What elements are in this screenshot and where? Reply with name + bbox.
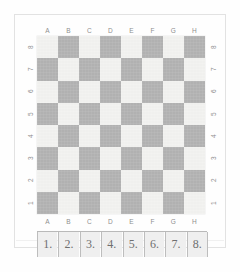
square-A5[interactable] [37, 103, 58, 125]
square-G4[interactable] [163, 125, 184, 147]
square-H1[interactable] [184, 192, 205, 214]
square-C2[interactable] [79, 170, 100, 192]
square-G8[interactable] [163, 36, 184, 58]
chessboard [37, 36, 205, 214]
rank-text: 7 [210, 68, 217, 72]
answer-cell-2[interactable]: 2. [58, 232, 78, 257]
file-labels-bottom: A B C D E F G H [37, 216, 205, 227]
rank-label-2-left: 2 [25, 170, 36, 192]
square-H8[interactable] [184, 36, 205, 58]
square-D6[interactable] [100, 81, 121, 103]
square-A6[interactable] [37, 81, 58, 103]
square-G6[interactable] [163, 81, 184, 103]
square-H7[interactable] [184, 58, 205, 80]
square-E8[interactable] [121, 36, 142, 58]
answer-strip: 1. 2. 3. 4. 5. 6. 7. 8. [37, 231, 207, 257]
square-B2[interactable] [58, 170, 79, 192]
rank-label-7-right: 7 [208, 58, 219, 80]
square-B7[interactable] [58, 58, 79, 80]
square-D1[interactable] [100, 192, 121, 214]
square-D5[interactable] [100, 103, 121, 125]
square-E7[interactable] [121, 58, 142, 80]
square-H5[interactable] [184, 103, 205, 125]
square-G1[interactable] [163, 192, 184, 214]
rank-label-1-left: 1 [25, 192, 36, 214]
file-label-h-top: H [184, 25, 205, 36]
square-G2[interactable] [163, 170, 184, 192]
square-A4[interactable] [37, 125, 58, 147]
square-H2[interactable] [184, 170, 205, 192]
square-D8[interactable] [100, 36, 121, 58]
square-B6[interactable] [58, 81, 79, 103]
square-C5[interactable] [79, 103, 100, 125]
rank-label-5-left: 5 [25, 103, 36, 125]
square-G7[interactable] [163, 58, 184, 80]
square-C4[interactable] [79, 125, 100, 147]
square-F7[interactable] [142, 58, 163, 80]
square-F2[interactable] [142, 170, 163, 192]
answer-cell-8[interactable]: 8. [187, 232, 207, 257]
square-D2[interactable] [100, 170, 121, 192]
square-B1[interactable] [58, 192, 79, 214]
square-F3[interactable] [142, 147, 163, 169]
square-F1[interactable] [142, 192, 163, 214]
rank-label-4-left: 4 [25, 125, 36, 147]
answer-cell-7[interactable]: 7. [165, 232, 185, 257]
square-B8[interactable] [58, 36, 79, 58]
square-H6[interactable] [184, 81, 205, 103]
square-E2[interactable] [121, 170, 142, 192]
square-D3[interactable] [100, 147, 121, 169]
file-label-h-bottom: H [184, 216, 205, 227]
rank-label-6-right: 6 [208, 81, 219, 103]
square-A7[interactable] [37, 58, 58, 80]
rank-text: 3 [27, 157, 34, 161]
rank-text: 5 [210, 112, 217, 116]
square-G5[interactable] [163, 103, 184, 125]
rank-text: 6 [27, 90, 34, 94]
answer-cell-3[interactable]: 3. [80, 232, 100, 257]
file-label-c-top: C [79, 25, 100, 36]
square-E1[interactable] [121, 192, 142, 214]
square-E3[interactable] [121, 147, 142, 169]
square-F5[interactable] [142, 103, 163, 125]
rank-text: 8 [27, 45, 34, 49]
rank-labels-right: 8 7 6 5 4 3 2 1 [208, 36, 219, 214]
square-D7[interactable] [100, 58, 121, 80]
square-C6[interactable] [79, 81, 100, 103]
square-C7[interactable] [79, 58, 100, 80]
rank-labels-left: 8 7 6 5 4 3 2 1 [25, 36, 36, 214]
square-A1[interactable] [37, 192, 58, 214]
answer-cell-5[interactable]: 5. [123, 232, 143, 257]
square-C3[interactable] [79, 147, 100, 169]
square-B5[interactable] [58, 103, 79, 125]
file-label-a-top: A [37, 25, 58, 36]
square-F8[interactable] [142, 36, 163, 58]
square-C8[interactable] [79, 36, 100, 58]
rank-text: 8 [210, 45, 217, 49]
square-D4[interactable] [100, 125, 121, 147]
square-F4[interactable] [142, 125, 163, 147]
square-E5[interactable] [121, 103, 142, 125]
square-A3[interactable] [37, 147, 58, 169]
file-label-f-bottom: F [142, 216, 163, 227]
square-A8[interactable] [37, 36, 58, 58]
square-H3[interactable] [184, 147, 205, 169]
answer-cell-4[interactable]: 4. [101, 232, 121, 257]
worksheet-page: A B C D E F G H 8 7 6 5 4 3 2 1 8 7 6 5 … [0, 0, 240, 272]
answer-cell-6[interactable]: 6. [144, 232, 164, 257]
square-B3[interactable] [58, 147, 79, 169]
answer-cell-1[interactable]: 1. [37, 232, 57, 257]
square-A2[interactable] [37, 170, 58, 192]
rank-label-8-right: 8 [208, 36, 219, 58]
square-C1[interactable] [79, 192, 100, 214]
square-H4[interactable] [184, 125, 205, 147]
square-F6[interactable] [142, 81, 163, 103]
square-G3[interactable] [163, 147, 184, 169]
square-B4[interactable] [58, 125, 79, 147]
square-E4[interactable] [121, 125, 142, 147]
square-E6[interactable] [121, 81, 142, 103]
file-label-a-bottom: A [37, 216, 58, 227]
rank-text: 3 [210, 157, 217, 161]
rank-text: 6 [210, 90, 217, 94]
rank-text: 4 [210, 134, 217, 138]
